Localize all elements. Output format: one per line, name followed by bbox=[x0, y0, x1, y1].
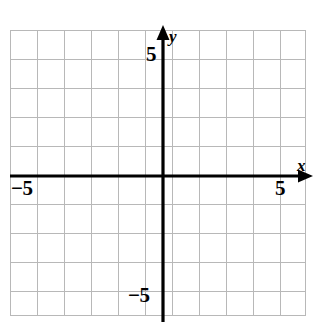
graph-canvas bbox=[0, 0, 324, 336]
y-axis-tick-label-positive: 5 bbox=[146, 44, 156, 65]
coordinate-plane-figure: 5 y −5 5 x −5 bbox=[0, 0, 324, 336]
y-axis bbox=[157, 25, 170, 322]
y-axis-tick-label-negative: −5 bbox=[128, 285, 149, 306]
grid-lines bbox=[10, 30, 306, 316]
y-axis-name-label: y bbox=[169, 28, 177, 45]
x-axis-tick-label-negative: −5 bbox=[11, 178, 32, 199]
x-axis-tick-label-positive: 5 bbox=[275, 178, 285, 199]
x-axis-name-label: x bbox=[297, 157, 306, 174]
